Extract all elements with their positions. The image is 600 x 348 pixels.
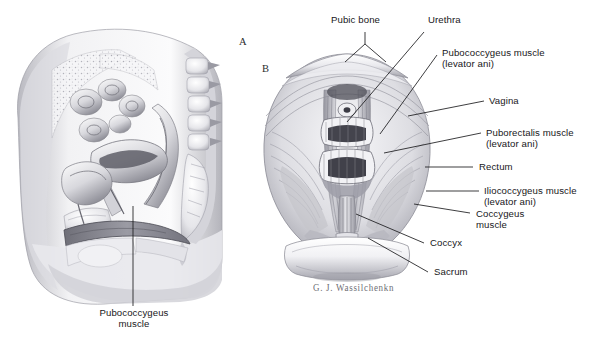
anatomy-figure: A B Pubococcygeus muscle Pubic bone Uret… (0, 0, 600, 348)
label-coccyx: Coccyx (430, 237, 462, 248)
label-rectum: Rectum (479, 161, 513, 172)
label-pubic-bone: Pubic bone (331, 14, 380, 25)
label-panel-a-pubococcygeus: Pubococcygeus muscle (76, 307, 192, 330)
label-vagina: Vagina (489, 95, 519, 106)
label-pubococcygeus-muscle: Pubococcygeus muscle (levator ani) (442, 47, 545, 70)
label-urethra: Urethra (428, 14, 461, 25)
artist-signature: G. J. Wassilchenkn (313, 283, 394, 294)
label-coccygeus-muscle: Coccygeus muscle (476, 208, 524, 231)
label-sacrum: Sacrum (434, 266, 468, 277)
panel-b-illustration (252, 46, 442, 286)
panel-a-illustration (8, 18, 238, 308)
panel-mark-b: B (262, 63, 269, 74)
panel-mark-a: A (239, 36, 247, 47)
label-puborectalis-muscle: Puborectalis muscle (levator ani) (486, 127, 574, 150)
label-iliococcygeus-muscle: Iliococcygeus muscle (levator ani) (484, 185, 577, 208)
